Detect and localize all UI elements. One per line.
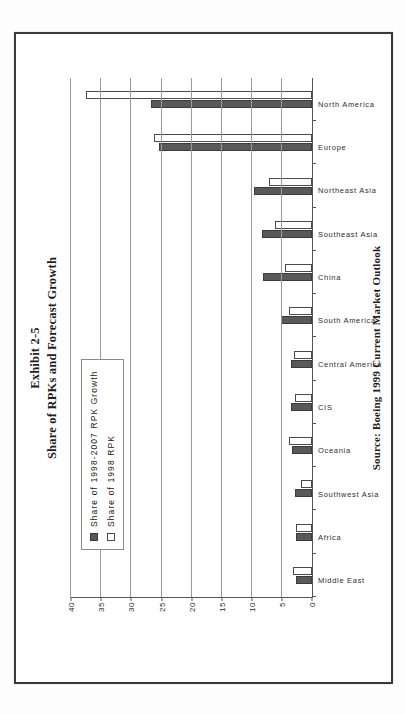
category-label-cell: Europe [315, 121, 367, 164]
bar [254, 187, 312, 195]
value-axis-tick-mark [251, 597, 252, 601]
bar [150, 100, 311, 108]
category-axis-labels: Middle EastAfricaSouthwest AsiaOceaniaCI… [315, 78, 367, 598]
bar [291, 446, 311, 454]
legend-label: Share of 1998 RPK [106, 435, 116, 527]
value-axis-tick-mark [221, 597, 222, 601]
value-axis-tick-mark [70, 597, 71, 601]
value-axis-tick-mark [161, 597, 162, 601]
legend-label: Share of 1998-2007 RPK Growth [89, 370, 99, 527]
bar [284, 264, 311, 272]
scan-frame: Exhibit 2-5 Share of RPKs and Forecast G… [14, 32, 393, 684]
legend-swatch-filled-dark-square-icon [90, 533, 98, 541]
category-axis-label: Northeast Asia [318, 186, 377, 195]
value-gridline: 20 [190, 78, 191, 597]
category-label-cell: China [315, 251, 367, 294]
rotated-exhibit-container: Exhibit 2-5 Share of RPKs and Forecast G… [20, 38, 388, 678]
chart-area: 0510152025303540 Middle EastAfricaSouthw… [67, 74, 367, 642]
bar [292, 567, 311, 575]
category-axis-label: Africa [318, 533, 341, 542]
source-note: Source: Boeing 1999 Current Market Outlo… [370, 48, 382, 668]
category-axis-label: China [318, 273, 341, 282]
value-axis-tick-label: 25 [157, 602, 166, 612]
bar [293, 351, 311, 359]
category-axis-label: Central America [318, 360, 382, 369]
value-axis-tick-mark [191, 597, 192, 601]
bar [290, 360, 311, 368]
value-axis-tick-mark [130, 597, 131, 601]
bar [268, 178, 311, 186]
exhibit-title: Share of RPKs and Forecast Growth [44, 48, 60, 668]
chart-legend: Share of 1998-2007 RPK Growth Share of 1… [81, 359, 124, 550]
bar [296, 524, 312, 532]
value-axis-tick-label: 40 [66, 602, 75, 612]
bar [158, 143, 311, 151]
category-axis-label: Southeast Asia [318, 230, 378, 239]
value-axis-tick-label: 30 [126, 602, 135, 612]
scan-inner: Exhibit 2-5 Share of RPKs and Forecast G… [16, 34, 391, 682]
value-axis-tick-label: 10 [247, 602, 256, 612]
exhibit-number: Exhibit 2-5 [28, 48, 44, 668]
bar [290, 403, 311, 411]
category-label-cell: CIS [315, 381, 367, 424]
category-axis-label: Southwest Asia [318, 490, 379, 499]
bar [289, 437, 312, 445]
bar [294, 394, 311, 402]
value-axis-tick-mark [311, 597, 312, 601]
value-axis-tick-label: 20 [187, 602, 196, 612]
category-label-cell: Middle East [315, 555, 367, 598]
value-axis-tick-label: 15 [217, 602, 226, 612]
legend-swatch-open-white-square-icon [107, 533, 115, 541]
value-gridline: 5 [280, 78, 281, 597]
category-label-cell: Oceania [315, 425, 367, 468]
value-axis-tick-label: 35 [96, 602, 105, 612]
bar [288, 307, 311, 315]
category-label-cell: Central America [315, 338, 367, 381]
category-label-cell: Southwest Asia [315, 468, 367, 511]
bar [296, 533, 312, 541]
exhibit: Exhibit 2-5 Share of RPKs and Forecast G… [20, 38, 388, 678]
exhibit-titles: Exhibit 2-5 Share of RPKs and Forecast G… [28, 48, 60, 668]
category-label-cell: Africa [315, 511, 367, 554]
bar [262, 230, 312, 238]
category-label-cell: Northeast Asia [315, 165, 367, 208]
value-axis-tick-label: 0 [307, 602, 316, 607]
scanned-page: Exhibit 2-5 Share of RPKs and Forecast G… [0, 0, 405, 714]
value-gridline: 30 [130, 78, 131, 597]
category-label-cell: South America [315, 295, 367, 338]
bar [296, 576, 312, 584]
bar [301, 480, 312, 488]
category-axis-label: Europe [318, 143, 346, 152]
value-gridline: 25 [160, 78, 161, 597]
legend-item-share: Share of 1998 RPK [106, 370, 116, 541]
value-axis-tick-mark [281, 597, 282, 601]
value-gridline: 10 [250, 78, 251, 597]
bar [262, 273, 311, 281]
value-axis-tick-label: 5 [277, 602, 286, 607]
category-axis-label: CIS [318, 403, 333, 412]
value-gridline: 40 [70, 78, 71, 597]
value-gridline: 15 [220, 78, 221, 597]
bar [86, 91, 312, 99]
category-axis-label: Middle East [318, 576, 365, 585]
category-label-cell: North America [315, 78, 367, 121]
bar [274, 221, 311, 229]
bar [295, 489, 312, 497]
bar [153, 134, 311, 142]
value-axis-tick-mark [100, 597, 101, 601]
category-axis-label: Oceania [318, 446, 351, 455]
category-axis-label: South America [318, 316, 376, 325]
category-axis-label: North America [318, 100, 375, 109]
category-label-cell: Southeast Asia [315, 208, 367, 251]
bar [280, 316, 311, 324]
legend-item-growth: Share of 1998-2007 RPK Growth [89, 370, 99, 541]
